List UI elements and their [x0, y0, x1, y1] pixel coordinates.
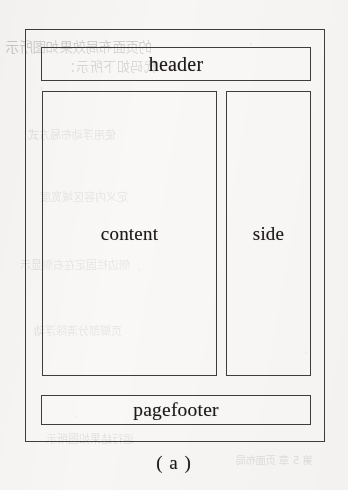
side-box: side	[226, 91, 311, 376]
header-box-label: header	[149, 54, 204, 74]
content-box-label: content	[101, 224, 158, 243]
page-layout-diagram: header content side pagefooter	[0, 0, 348, 490]
content-box: content	[42, 91, 217, 376]
pagefooter-box: pagefooter	[41, 395, 311, 425]
side-box-label: side	[253, 224, 284, 243]
header-box: header	[41, 47, 311, 81]
pagefooter-box-label: pagefooter	[133, 400, 218, 420]
figure-caption: ( a )	[0, 452, 348, 474]
